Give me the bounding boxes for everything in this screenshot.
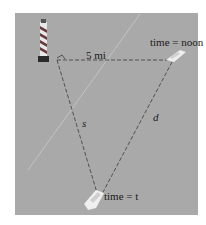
segment-s-label: s [82,118,86,129]
boat-start-icon [166,50,186,62]
time-noon-label: time = noon [150,37,203,48]
time-t-label: time = t [104,191,138,202]
segment-d-label: d [153,112,159,123]
lighthouse-icon [38,19,49,62]
right-angle-marker [57,55,65,59]
time-t-text: time = t [104,190,138,202]
diagram-scene [0,0,206,225]
segment-d-line [102,62,172,194]
boat-end-icon [84,190,104,210]
distance-label: 5 mi [86,50,106,61]
